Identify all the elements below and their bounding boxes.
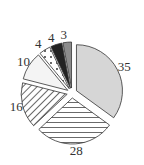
slice-label: 16 bbox=[10, 100, 23, 113]
slice-label: 4 bbox=[35, 37, 42, 50]
pie-chart bbox=[0, 0, 144, 165]
slice-label: 10 bbox=[17, 55, 30, 68]
slice-label: 28 bbox=[70, 144, 83, 157]
slice-label: 35 bbox=[118, 60, 131, 73]
slice-label: 3 bbox=[61, 28, 68, 41]
slice-label: 4 bbox=[48, 31, 55, 44]
